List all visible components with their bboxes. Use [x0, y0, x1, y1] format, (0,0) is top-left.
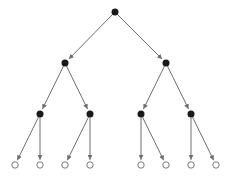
tree-edge-arrow — [143, 117, 164, 160]
tree-edge-arrow — [117, 14, 162, 59]
internal-node — [87, 111, 94, 118]
tree-edge-arrow — [67, 117, 88, 160]
tree-edge-arrow — [42, 66, 63, 109]
leaf-node — [62, 162, 68, 168]
leaf-node — [163, 162, 169, 168]
tree-edge-arrow — [193, 117, 214, 160]
tree-edge-arrow — [67, 66, 88, 109]
leaf-node — [188, 162, 194, 168]
internal-node — [163, 60, 170, 67]
internal-node — [62, 60, 69, 67]
tree-edge-arrow — [143, 66, 164, 109]
tree-edge-arrow — [168, 66, 189, 109]
internal-node — [138, 111, 145, 118]
tree-diagram — [0, 0, 233, 181]
internal-node — [188, 111, 195, 118]
leaf-node — [138, 162, 144, 168]
tree-edge-arrow — [69, 14, 113, 59]
tree-edge-arrow — [17, 117, 38, 160]
tree-nodes — [12, 9, 219, 169]
leaf-node — [12, 162, 18, 168]
tree-edges — [17, 14, 213, 160]
leaf-node — [213, 162, 219, 168]
internal-node — [37, 111, 44, 118]
leaf-node — [87, 162, 93, 168]
leaf-node — [37, 162, 43, 168]
root-node — [112, 9, 119, 16]
